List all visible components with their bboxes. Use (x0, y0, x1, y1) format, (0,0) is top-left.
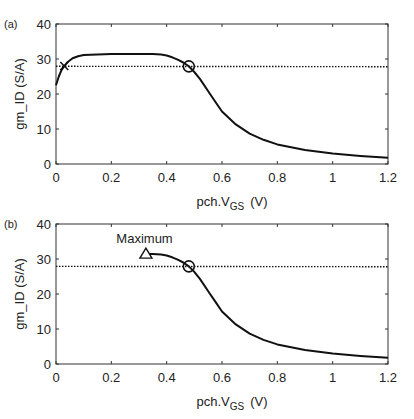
x-tick-label: 0.6 (213, 370, 231, 385)
gm-id-curve (145, 254, 389, 358)
x-marker (60, 62, 68, 70)
x-tick-label: 0.8 (268, 170, 286, 185)
y-axis-label: gm_ID (S/A) (12, 58, 27, 130)
y-tick-label: 0 (44, 357, 51, 372)
x-tick-label: 0 (52, 170, 59, 185)
y-tick-label: 20 (37, 287, 51, 302)
x-tick-label: 0.4 (158, 170, 176, 185)
y-axis-label: gm_ID (S/A) (12, 258, 27, 330)
x-tick-label: 0.2 (102, 170, 120, 185)
y-tick-label: 0 (44, 157, 51, 172)
y-tick-label: 30 (37, 252, 51, 267)
x-tick-label: 1 (329, 170, 336, 185)
gm-id-curve (56, 54, 388, 158)
y-tick-label: 30 (37, 52, 51, 67)
plot-frame (56, 24, 388, 164)
chart-panel-b: 00.20.40.60.811.2010203040(b)gm_ID (S/A)… (4, 217, 397, 412)
chart-panel-a: 00.20.40.60.811.2010203040(a)gm_ID (S/A)… (4, 17, 397, 212)
x-tick-label: 1 (329, 370, 336, 385)
figure: 00.20.40.60.811.2010203040(a)gm_ID (S/A)… (0, 0, 414, 419)
y-tick-label: 40 (37, 17, 51, 32)
y-tick-label: 20 (37, 87, 51, 102)
x-tick-label: 1.2 (379, 370, 397, 385)
x-tick-label: 0.2 (102, 370, 120, 385)
panel-label: (a) (4, 18, 17, 30)
annotation-maximum: Maximum (116, 231, 172, 246)
y-tick-label: 10 (37, 122, 51, 137)
x-tick-label: 0.8 (268, 370, 286, 385)
y-tick-label: 40 (37, 217, 51, 232)
x-tick-label: 0.4 (158, 370, 176, 385)
x-tick-label: 0.6 (213, 170, 231, 185)
plot-frame (56, 224, 388, 364)
y-tick-label: 10 (37, 322, 51, 337)
x-tick-label: 0 (52, 370, 59, 385)
x-axis-label: pch.VGS(V) (196, 394, 267, 412)
x-tick-label: 1.2 (379, 170, 397, 185)
x-axis-label: pch.VGS(V) (196, 194, 267, 212)
panel-label: (b) (4, 218, 17, 230)
